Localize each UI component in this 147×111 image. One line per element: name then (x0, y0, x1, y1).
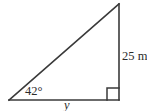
right-angle-marker-icon (107, 88, 119, 100)
vertical-side-label-25m: 25 m (122, 50, 147, 63)
base-side-label-y: y (64, 99, 70, 111)
angle-label-42-degrees: 42° (25, 85, 43, 98)
right-triangle-figure: 42° y 25 m (0, 0, 147, 111)
